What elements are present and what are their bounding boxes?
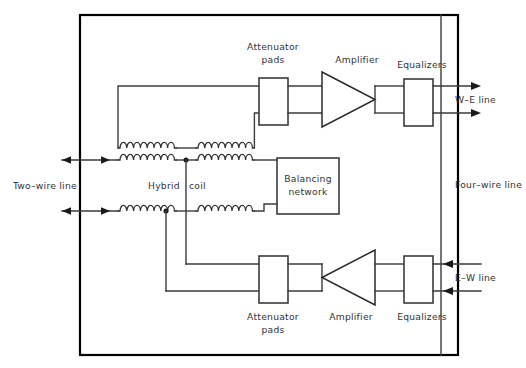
- two-wire-lower-arrow-right: [101, 207, 110, 215]
- coil-mid-left: [118, 154, 176, 160]
- two-wire-upper-arrow-right: [101, 156, 110, 164]
- attenuator-pads-top-label-line1: Attenuator: [247, 41, 299, 52]
- two-wire-lower-arrow-left: [62, 207, 71, 215]
- ew-line-label: E–W line: [455, 272, 496, 283]
- we-out-upper-arrow: [471, 82, 481, 90]
- coil-top-right: [196, 142, 254, 148]
- we-line-label: W–E line: [455, 94, 496, 105]
- ew-in-upper-arrow: [443, 260, 453, 268]
- attenuator-pads-bottom-label-line2: pads: [261, 324, 284, 335]
- amplifier-bottom-symbol: [322, 250, 375, 305]
- hybrid-coil-label-word2: coil: [189, 180, 206, 191]
- equalizers-top-label: Equalizers: [397, 59, 447, 70]
- we-out-lower-arrow: [471, 109, 481, 117]
- balancing-feed-lower: [254, 204, 277, 211]
- four-wire-line-label: Four–wire line: [455, 179, 522, 190]
- attenuator-pads-top-label-line2: pads: [261, 54, 284, 65]
- equalizers-bottom-label: Equalizers: [397, 311, 447, 322]
- coil-mid-right: [196, 154, 254, 160]
- coil-bot-right: [196, 205, 254, 211]
- schematic-canvas: Attenuator pads Amplifier Equalizers W–E…: [0, 0, 526, 368]
- attenuator-pads-bottom-label-line1: Attenuator: [247, 311, 299, 322]
- ew-in-lower-arrow: [443, 287, 453, 295]
- amplifier-top-label: Amplifier: [335, 54, 379, 65]
- balancing-network-label-line2: network: [288, 186, 327, 197]
- hybrid-coil-label-word1: Hybrid: [148, 180, 180, 191]
- we-path-upper-feed: [118, 86, 259, 148]
- attenuator-pads-bottom-box: [259, 256, 288, 303]
- telephone-repeater-diagram: Attenuator pads Amplifier Equalizers W–E…: [0, 0, 526, 368]
- balancing-network-label-line1: Balancing: [284, 173, 331, 184]
- two-wire-upper-arrow-left: [62, 156, 71, 164]
- equalizers-top-box: [404, 79, 433, 126]
- amplifier-top-symbol: [322, 72, 375, 127]
- amplifier-bottom-label: Amplifier: [329, 311, 373, 322]
- equalizers-bottom-box: [404, 256, 433, 303]
- two-wire-line-label: Two–wire line: [12, 180, 77, 191]
- coil-top-left: [118, 142, 176, 148]
- attenuator-pads-top-box: [259, 78, 288, 125]
